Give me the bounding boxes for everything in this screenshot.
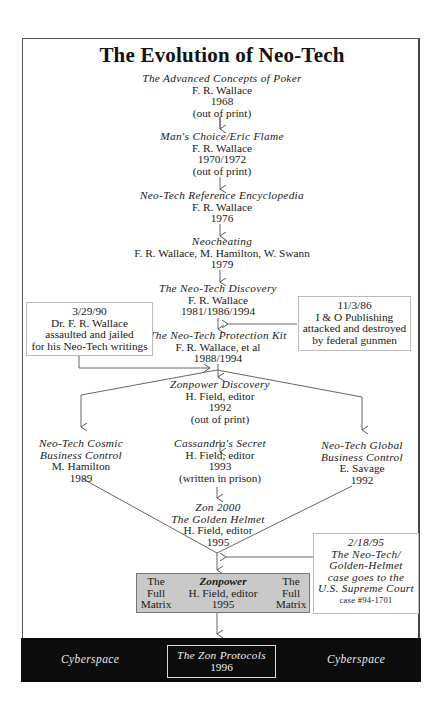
zon-protocols-box: The Zon Protocols 1996 — [167, 645, 276, 678]
event-date: 11/3/86 — [299, 300, 410, 312]
event-date: 3/29/90 — [27, 306, 152, 318]
node-title: Zonpower Discovery — [0, 379, 440, 391]
event-line: for his Neo-Tech writings — [27, 341, 152, 353]
node-title: The Neo-Tech Discovery — [0, 283, 436, 295]
case-number: case #94-1701 — [314, 595, 418, 607]
label-line: The — [274, 576, 308, 588]
node-neocheating: Neocheating F. R. Wallace, M. Hamilton, … — [0, 236, 444, 271]
node-zonpower-discovery: Zonpower Discovery H. Field, editor 1992… — [0, 379, 440, 425]
zon-protocols-year: 1996 — [168, 661, 275, 673]
node-title: Neo-Tech Reference Encyclopedia — [0, 190, 444, 202]
node-note: (out of print) — [0, 166, 444, 178]
node-mans-choice: Man's Choice/Eric Flame F. R. Wallace 19… — [0, 131, 444, 177]
full-matrix-left: The Full Matrix — [139, 576, 173, 611]
node-year: 1979 — [0, 259, 444, 271]
label-line: Matrix — [274, 599, 308, 611]
node-year: 1992 — [306, 475, 418, 487]
node-title: Neocheating — [0, 236, 444, 248]
node-note: (out of print) — [0, 108, 444, 120]
zon-protocols-title: The Zon Protocols — [168, 649, 275, 661]
event-box-wallace-jailed: 3/29/90 Dr. F. R. Wallace assaulted and … — [26, 302, 153, 356]
node-title: Zon 2000 — [0, 502, 436, 514]
node-cosmic-business-control: Neo-Tech Cosmic Business Control M. Hami… — [26, 438, 136, 484]
node-advanced-concepts-of-poker: The Advanced Concepts of Poker F. R. Wal… — [0, 73, 444, 119]
event-box-publishing-attacked: 11/3/86 I & O Publishing attacked and de… — [298, 296, 411, 351]
zonpower-box: The Full Matrix Zonpower H. Field, edito… — [136, 573, 310, 613]
node-title: Man's Choice/Eric Flame — [0, 131, 444, 143]
full-matrix-right: The Full Matrix — [274, 576, 308, 611]
node-title: The Advanced Concepts of Poker — [0, 73, 444, 85]
zonpower-center: Zonpower H. Field, editor 1995 — [173, 576, 273, 611]
zonpower-year: 1995 — [173, 599, 273, 611]
label-line: The — [139, 576, 173, 588]
event-date: 2/18/95 — [314, 537, 418, 549]
cyberspace-left-label: Cyberspace — [61, 653, 119, 665]
zonpower-title: Zonpower — [173, 576, 273, 588]
node-title: Neo-Tech Global — [306, 440, 418, 452]
node-global-business-control: Neo-Tech Global Business Control E. Sava… — [306, 440, 418, 486]
node-title: Neo-Tech Cosmic — [26, 438, 136, 450]
node-reference-encyclopedia: Neo-Tech Reference Encyclopedia F. R. Wa… — [0, 190, 444, 225]
node-year: 1989 — [26, 473, 136, 485]
event-line: U.S. Supreme Court — [314, 583, 418, 595]
label-line: Matrix — [139, 599, 173, 611]
event-box-supreme-court: 2/18/95 The Neo-Tech/ Golden-Helmet case… — [313, 533, 419, 614]
node-note: (out of print) — [0, 414, 440, 426]
cyberspace-right-label: Cyberspace — [327, 653, 385, 665]
node-year: 1976 — [0, 213, 444, 225]
cyberspace-band: Cyberspace The Zon Protocols 1996 Cybers… — [21, 638, 421, 682]
event-line: by federal gunmen — [299, 335, 410, 347]
